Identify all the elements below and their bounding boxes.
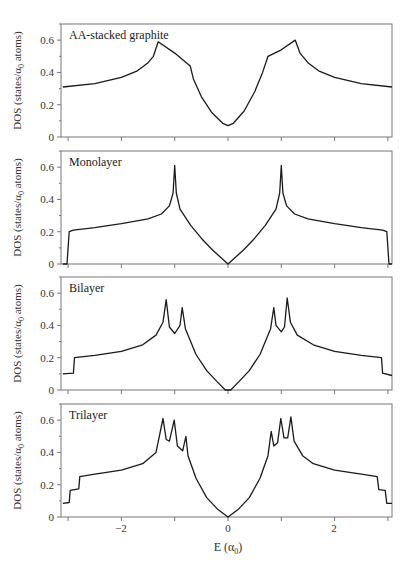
plot-frame (61, 404, 392, 517)
panel-label: Monolayer (69, 155, 122, 169)
panel-label: Bilayer (69, 281, 104, 295)
y-tick-label: 0 (49, 258, 55, 270)
y-tick-label: 0.6 (40, 287, 54, 299)
y-tick-label: 0 (49, 511, 55, 523)
y-axis-label: DOS (states/α0 atoms) (11, 158, 26, 257)
y-tick-label: 0.4 (40, 319, 54, 331)
dos-figure: 00.20.40.6AA-stacked graphiteDOS (states… (0, 0, 413, 573)
plot-frame (61, 277, 392, 390)
y-axis-label: DOS (states/α0 atoms) (11, 31, 26, 130)
x-tick-label: 0 (225, 522, 231, 534)
panels: 00.20.40.6AA-stacked graphiteDOS (states… (11, 24, 392, 523)
y-axis-label: DOS (states/α0 atoms) (11, 411, 26, 510)
panel-label: AA-stacked graphite (69, 28, 169, 42)
y-tick-label: 0.4 (40, 66, 54, 78)
x-tick-label: −2 (115, 522, 127, 534)
y-tick-label: 0.6 (40, 414, 54, 426)
y-tick-label: 0.2 (40, 99, 54, 111)
y-tick-label: 0 (49, 131, 55, 143)
panel-monolayer: 00.20.40.6MonolayerDOS (states/α0 atoms) (11, 151, 392, 270)
y-tick-label: 0.4 (40, 446, 54, 458)
y-tick-label: 0 (49, 384, 55, 396)
x-axis: −2 0 2 E (α0) (115, 522, 337, 556)
panel-label: Trilayer (69, 408, 107, 422)
dos-curve (63, 417, 392, 517)
panel-aa-stacked-graphite: 00.20.40.6AA-stacked graphiteDOS (states… (11, 24, 392, 143)
dos-curve (63, 298, 392, 390)
x-tick-label: 2 (331, 522, 337, 534)
y-tick-label: 0.6 (40, 161, 54, 173)
y-tick-label: 0.4 (40, 193, 54, 205)
y-tick-label: 0.2 (40, 226, 54, 238)
dos-curve (63, 40, 392, 126)
y-tick-label: 0.2 (40, 479, 54, 491)
y-tick-label: 0.6 (40, 34, 54, 46)
panel-bilayer: 00.20.40.6BilayerDOS (states/α0 atoms) (11, 277, 392, 396)
y-axis-label: DOS (states/α0 atoms) (11, 284, 26, 383)
y-tick-label: 0.2 (40, 352, 54, 364)
dos-curve (63, 166, 392, 265)
panel-trilayer: 00.20.40.6TrilayerDOS (states/α0 atoms) (11, 404, 392, 523)
x-axis-label: E (α0) (214, 540, 243, 556)
